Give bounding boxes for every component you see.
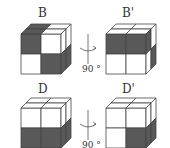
cube-right-cell xyxy=(151,118,156,143)
cube-right-cell xyxy=(66,44,71,69)
cube-front-cell xyxy=(126,128,146,148)
cube-front-cell xyxy=(126,54,146,74)
cube-right-cell xyxy=(66,118,71,143)
cube-front-cell xyxy=(106,108,126,128)
cube-right-cell xyxy=(61,123,66,148)
cube-front-cell xyxy=(21,128,41,148)
cube-front-cell xyxy=(21,108,41,128)
cube-front-cell xyxy=(41,34,61,54)
cube-front-cell xyxy=(126,108,146,128)
cube-front-cell xyxy=(41,54,61,74)
cube-front-cell xyxy=(126,34,146,54)
cube-figure xyxy=(0,0,170,148)
cube-front-cell xyxy=(21,54,41,74)
rotation-axis-icon xyxy=(80,34,96,64)
cube-right-cell xyxy=(151,44,156,69)
cube-right-cell xyxy=(146,123,151,148)
cube-right-cell xyxy=(61,49,66,74)
cube-front-cell xyxy=(41,108,61,128)
cube-front-cell xyxy=(106,54,126,74)
cube-front-cell xyxy=(106,34,126,54)
cube-front-cell xyxy=(41,128,61,148)
cube-right-cell xyxy=(146,49,151,74)
cube-front-cell xyxy=(21,34,41,54)
rotation-axis-icon xyxy=(80,110,96,140)
cube-front-cell xyxy=(106,128,126,148)
